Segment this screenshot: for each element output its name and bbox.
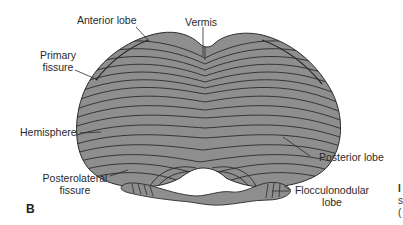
label-hemisphere: Hemisphere [20, 126, 77, 138]
label-flocculonodular-line2: lobe [292, 196, 372, 208]
edge-fragment-line3: ( [398, 207, 403, 219]
panel-label: B [26, 202, 35, 216]
edge-text-fragment: I s ( [398, 183, 403, 219]
cerebellum-diagram: Anterior lobe Vermis Primary fissure Hem… [0, 0, 403, 225]
label-posterior-lobe: Posterior lobe [319, 151, 384, 163]
label-posterolateral-fissure: Posterolateral fissure [40, 172, 110, 196]
label-primary-fissure-line1: Primary [38, 49, 78, 61]
label-anterior-lobe: Anterior lobe [77, 14, 137, 26]
label-posterolateral-fissure-line2: fissure [40, 184, 110, 196]
label-vermis: Vermis [185, 16, 217, 28]
label-posterolateral-fissure-line1: Posterolateral [40, 172, 110, 184]
label-flocculonodular-line1: Flocculonodular [292, 184, 372, 196]
label-primary-fissure-line2: fissure [38, 61, 78, 73]
edge-fragment-line1: I [398, 183, 403, 195]
label-primary-fissure: Primary fissure [38, 49, 78, 73]
edge-fragment-line2: s [398, 195, 403, 207]
label-flocculonodular-lobe: Flocculonodular lobe [292, 184, 372, 208]
